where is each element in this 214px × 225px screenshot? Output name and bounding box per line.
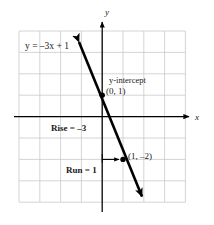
y-intercept-point-label: (0, 1) <box>106 87 126 96</box>
x-axis-label: x <box>195 113 199 122</box>
point-second <box>120 157 125 162</box>
graph-figure: x y y = –3x + 1 y-intercept (0, 1) (1, –… <box>0 0 214 225</box>
y-intercept-label: y-intercept <box>109 76 146 85</box>
rise-label: Rise = –3 <box>51 124 86 133</box>
run-label: Run = 1 <box>66 166 97 175</box>
second-point-label: (1, –2) <box>128 152 152 161</box>
run-indicator <box>102 154 119 163</box>
point-y-intercept <box>100 93 105 98</box>
coordinate-plane-svg <box>0 0 214 225</box>
y-axis-label: y <box>105 8 109 17</box>
equation-label: y = –3x + 1 <box>25 42 69 52</box>
